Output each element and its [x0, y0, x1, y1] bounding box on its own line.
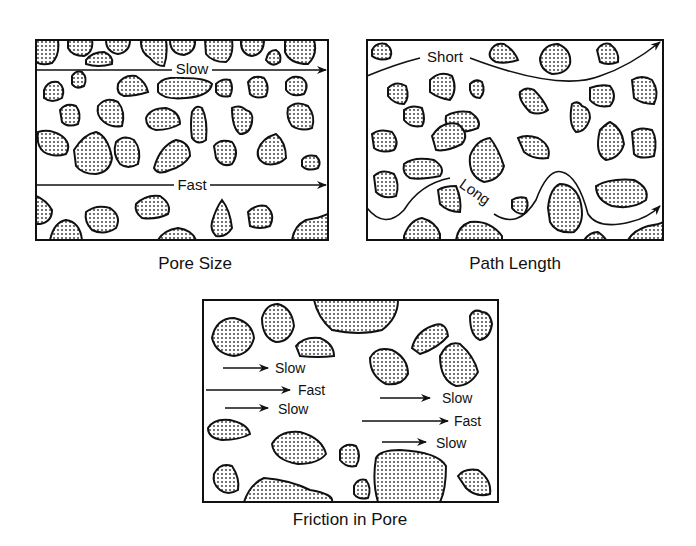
friction-in-pore-caption: Friction in Pore: [255, 510, 445, 530]
short-label: Short: [427, 48, 464, 65]
left-slow-label-2: Slow: [278, 401, 309, 417]
right-slow-label-1: Slow: [442, 390, 473, 406]
slow-label: Slow: [176, 60, 209, 77]
path-length-panel: Short Long: [367, 40, 663, 240]
right-slow-label-2: Slow: [436, 435, 467, 451]
left-slow-label-1: Slow: [275, 360, 306, 376]
path-length-caption: Path Length: [420, 254, 610, 274]
fast-label: Fast: [177, 176, 207, 193]
left-fast-label: Fast: [298, 382, 325, 398]
pore-size-panel: Slow Fast: [36, 40, 328, 240]
right-fast-label: Fast: [454, 413, 481, 429]
pore-size-caption: Pore Size: [100, 254, 290, 274]
friction-in-pore-panel: Slow Fast Slow Slow Fast Slow: [203, 300, 498, 502]
